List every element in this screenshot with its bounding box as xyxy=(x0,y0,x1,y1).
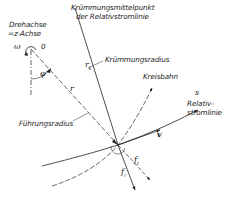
rk-label: rk xyxy=(85,61,92,73)
center-point-label: 0 xyxy=(41,43,45,51)
leader-guide-radius xyxy=(73,113,88,121)
rotation-axis-label-2: =z-Achse xyxy=(8,30,41,38)
rotation-axis-label-1: Drehachse xyxy=(9,21,47,29)
velocity-arrow xyxy=(118,130,160,145)
curvature-center-label-1: Krümmungsmittelpunkt xyxy=(71,4,154,12)
relative-streamline-label-2: stromlinie xyxy=(187,109,222,117)
velocity-label: v xyxy=(157,130,162,138)
curvature-radius-line xyxy=(75,8,118,145)
ft-label: ft xyxy=(134,156,139,168)
circular-path xyxy=(52,88,152,186)
relative-streamline-label-1: Relativ- xyxy=(187,100,214,108)
curvature-center-label-2: der Relativstromlinie xyxy=(76,13,149,21)
guide-radius-label: Führungsradius xyxy=(19,120,73,128)
curvature-radius-label: Krümmungsradius xyxy=(105,56,169,64)
fr-label: fr xyxy=(121,168,126,180)
phi-label: φ xyxy=(40,70,46,78)
circular-path-label: Kreisbahn xyxy=(143,73,178,81)
r-label: r xyxy=(70,85,74,93)
omega-label: ω xyxy=(14,43,21,51)
s-label: s xyxy=(195,89,199,97)
